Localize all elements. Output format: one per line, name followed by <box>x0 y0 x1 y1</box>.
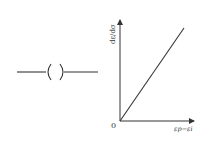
y-axis-label: dε/dσ <box>109 24 117 44</box>
left-parenthesis <box>48 64 51 80</box>
data-line <box>120 28 184 121</box>
diagram-canvas: 0 dε/dσ εp−εi <box>0 0 211 144</box>
x-axis-label: εp−εi <box>174 125 193 133</box>
component-symbol <box>17 64 98 80</box>
right-parenthesis <box>60 64 63 80</box>
graph: 0 dε/dσ εp−εi <box>109 20 194 133</box>
origin-label: 0 <box>111 121 116 130</box>
